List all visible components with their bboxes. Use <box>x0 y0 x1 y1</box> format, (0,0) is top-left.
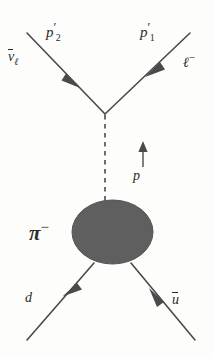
antineutrino-subscript: ℓ <box>14 56 18 67</box>
lepton-arrowhead <box>145 62 165 77</box>
momentum-p1-subscript: 1 <box>150 32 155 43</box>
down-quark-arrowhead <box>63 283 83 297</box>
momentum-p2-base: p <box>46 24 54 40</box>
diagram-lines <box>0 0 214 358</box>
pion-base: π <box>29 221 40 245</box>
lepton-label: ℓ− <box>183 52 195 70</box>
up-antiquark-base: u <box>172 293 179 307</box>
down-quark-label: d <box>25 291 32 305</box>
propagator-momentum-label: p <box>133 169 140 183</box>
pion-blob <box>72 200 153 264</box>
momentum-label-p1-prime: p′1 <box>140 20 155 43</box>
propagator-momentum-base: p <box>133 168 140 183</box>
down-quark-base: d <box>25 290 32 305</box>
momentum-label-p2-prime: p′2 <box>46 20 61 43</box>
down-quark-line <box>27 263 94 340</box>
antineutrino-base: ν <box>8 50 14 64</box>
feynman-diagram-canvas: p′2 p′1 νℓ ℓ− p π− d u <box>0 0 214 358</box>
momentum-p1-base: p <box>140 24 148 40</box>
antineutrino-label: νℓ <box>8 50 18 67</box>
up-antiquark-arrowhead <box>149 288 164 307</box>
propagator-momentum-arrowhead <box>138 141 147 152</box>
antineutrino-arrowhead <box>62 74 81 89</box>
up-antiquark-label: u <box>172 293 179 307</box>
lepton-line <box>105 33 190 114</box>
pion-label: π− <box>29 220 49 244</box>
pion-charge-superscript: − <box>40 219 48 235</box>
lepton-charge-superscript: − <box>189 51 195 63</box>
momentum-p2-subscript: 2 <box>56 32 61 43</box>
